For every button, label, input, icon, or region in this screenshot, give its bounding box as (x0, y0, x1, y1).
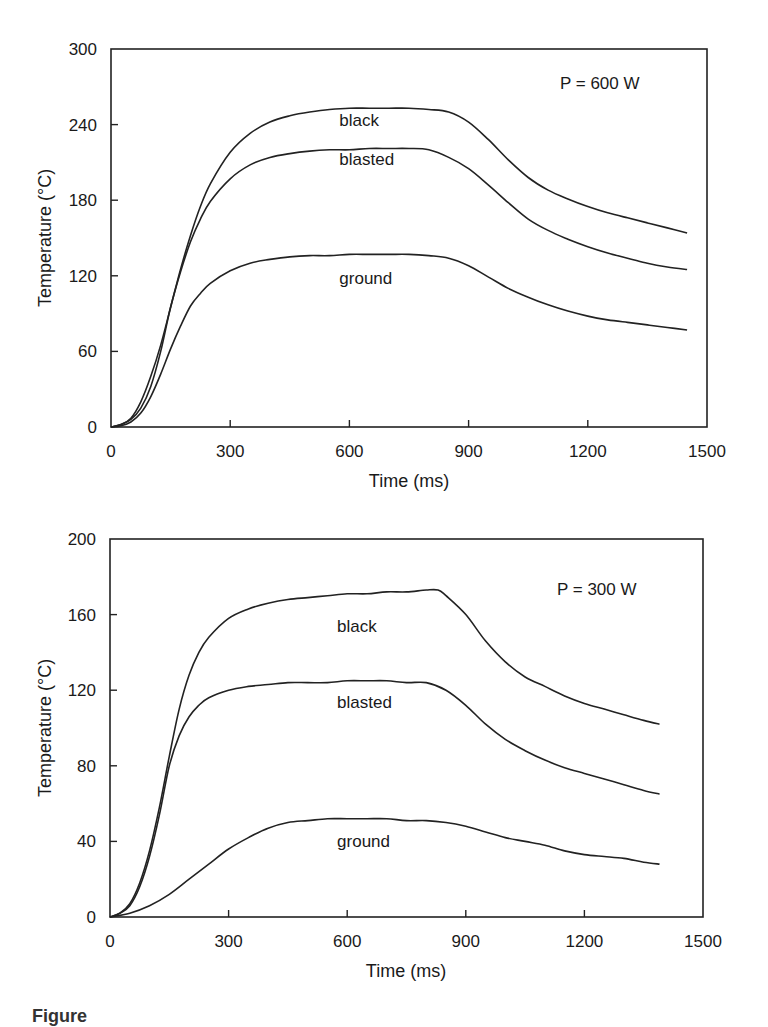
curves (111, 108, 687, 427)
y-tick-label: 240 (69, 116, 97, 135)
curve-black (111, 108, 687, 427)
chart-600w: 060120180240300 030060090012001500 P = 6… (35, 40, 726, 491)
y-tick-label: 120 (69, 267, 97, 286)
x-tick-label: 900 (452, 932, 480, 951)
curve-label-black: black (337, 617, 377, 636)
power-annotation: P = 600 W (560, 74, 640, 93)
x-tick-label: 300 (214, 932, 242, 951)
y-tick-label: 80 (77, 757, 96, 776)
y-tick-label: 0 (87, 908, 96, 927)
x-tick-label: 1200 (569, 442, 607, 461)
y-tick-label: 160 (68, 606, 96, 625)
y-tick-label: 60 (78, 342, 97, 361)
x-tick-label: 1500 (688, 442, 726, 461)
x-axis-ticks: 030060090012001500 (106, 420, 726, 461)
chart-300w: 04080120160200 030060090012001500 P = 30… (35, 530, 722, 981)
x-tick-label: 600 (335, 442, 363, 461)
y-tick-label: 200 (68, 530, 96, 549)
x-tick-label: 300 (216, 442, 244, 461)
x-axis-ticks: 030060090012001500 (105, 910, 722, 951)
curve-ground (111, 254, 687, 427)
curve-blasted (111, 148, 687, 427)
plot-frame (111, 49, 707, 427)
y-tick-label: 300 (69, 40, 97, 59)
x-tick-label: 1500 (684, 932, 722, 951)
figure-caption: Figure (32, 1006, 87, 1027)
x-tick-label: 1200 (565, 932, 603, 951)
x-tick-label: 0 (106, 442, 115, 461)
x-tick-label: 900 (454, 442, 482, 461)
y-axis-title: Temperature (°C) (35, 659, 55, 797)
x-axis-title: Time (ms) (366, 961, 446, 981)
y-tick-label: 120 (68, 681, 96, 700)
power-annotation: P = 300 W (557, 580, 637, 599)
curve-label-blasted: blasted (339, 150, 394, 169)
y-tick-label: 0 (88, 418, 97, 437)
x-tick-label: 600 (333, 932, 361, 951)
x-axis-title: Time (ms) (369, 471, 449, 491)
curve-label-black: black (339, 111, 379, 130)
curve-label-blasted: blasted (337, 693, 392, 712)
y-tick-label: 180 (69, 191, 97, 210)
x-tick-label: 0 (105, 932, 114, 951)
curve-blasted (110, 681, 660, 917)
y-axis-title: Temperature (°C) (35, 169, 55, 307)
curve-label-ground: ground (337, 832, 390, 851)
curve-label-ground: ground (339, 269, 392, 288)
curves (110, 590, 660, 917)
y-tick-label: 40 (77, 832, 96, 851)
curve-black (110, 590, 660, 917)
